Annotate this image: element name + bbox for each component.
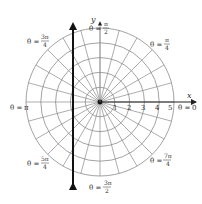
tick-label-4: 4	[155, 104, 160, 112]
radial-ray	[36, 102, 100, 139]
radial-ray	[100, 102, 171, 121]
y-axis-label: y	[90, 15, 96, 24]
svg-text:5π: 5π	[41, 155, 49, 162]
angle-label-theta-pi: θ = π	[10, 104, 29, 112]
svg-text:θ =: θ =	[27, 38, 39, 46]
angle-label-theta-5pi-4: θ = 5π 4	[27, 155, 49, 170]
radial-ray	[100, 38, 137, 102]
svg-text:π: π	[165, 36, 169, 43]
angle-label-theta-3pi-4: θ = 3π 4	[27, 33, 49, 48]
svg-text:3π: 3π	[41, 33, 49, 40]
svg-text:π: π	[24, 104, 29, 112]
radial-ray	[29, 83, 100, 102]
svg-text:2: 2	[104, 28, 108, 35]
svg-text:θ =: θ =	[150, 157, 162, 165]
svg-text:4: 4	[165, 44, 169, 51]
radial-ray	[81, 31, 100, 102]
polar-grid-diagram: x y 1 2 3 4 5 θ = 0 θ = π 2 θ = π 4 θ =	[0, 0, 202, 204]
svg-text:4: 4	[43, 41, 47, 48]
svg-text:θ =: θ =	[89, 25, 101, 33]
radial-ray	[36, 65, 100, 102]
radial-ray	[100, 65, 164, 102]
svg-text:2: 2	[105, 187, 109, 194]
radial-ray	[100, 83, 171, 102]
polar-grid-svg: x y 1 2 3 4 5 θ = 0 θ = π 2 θ = π 4 θ =	[0, 0, 202, 204]
svg-text:θ =: θ =	[89, 184, 101, 192]
radial-ray	[81, 102, 100, 173]
radial-ray	[63, 38, 100, 102]
radial-ray	[100, 50, 152, 102]
x-axis-label: x	[187, 91, 192, 100]
svg-text:θ =: θ =	[10, 104, 22, 112]
svg-text:θ =: θ =	[150, 41, 162, 49]
svg-text:3π: 3π	[104, 179, 112, 186]
svg-text:0: 0	[192, 104, 196, 112]
angle-label-theta-3pi-2: θ = 3π 2	[89, 179, 112, 194]
svg-text:4: 4	[43, 163, 47, 170]
angle-label-theta-pi-4: θ = π 4	[150, 36, 170, 51]
tick-label-1: 1	[113, 104, 117, 112]
radial-ray	[100, 31, 119, 102]
radial-ray	[29, 102, 100, 121]
svg-text:π: π	[104, 20, 108, 27]
radial-ray	[100, 102, 119, 173]
tick-label-5: 5	[168, 104, 172, 112]
angle-label-theta-7pi-4: θ = 7π 4	[150, 152, 172, 167]
svg-text:θ =: θ =	[178, 104, 190, 112]
angle-label-theta-0: θ = 0	[178, 104, 196, 112]
tick-label-3: 3	[141, 104, 145, 112]
radial-ray	[63, 102, 100, 166]
svg-text:7π: 7π	[164, 152, 172, 159]
svg-text:4: 4	[166, 160, 170, 167]
tick-label-2: 2	[127, 104, 131, 112]
svg-text:θ =: θ =	[27, 160, 39, 168]
